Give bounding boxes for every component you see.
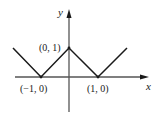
- point-label-right-vertex: (1, 0): [87, 83, 109, 95]
- point-label-peak: (0, 1): [39, 42, 61, 54]
- y-axis: [67, 9, 72, 112]
- x-axis-label: x: [145, 80, 151, 92]
- point-marker: [68, 47, 71, 50]
- point-marker: [97, 76, 100, 79]
- y-axis-label: y: [57, 6, 63, 18]
- x-axis-arrow-icon: [140, 75, 149, 80]
- function-curve: [13, 48, 127, 77]
- function-graph: y x (0, 1) (−1, 0) (1, 0): [0, 0, 161, 120]
- point-label-left-vertex: (−1, 0): [20, 83, 47, 95]
- y-axis-arrow-icon: [67, 9, 72, 18]
- x-axis: [15, 75, 149, 80]
- point-marker: [40, 76, 43, 79]
